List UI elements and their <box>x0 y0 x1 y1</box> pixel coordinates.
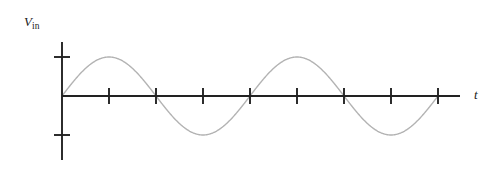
waveform-figure: Vin t <box>0 0 503 174</box>
y-axis-subscript: in <box>32 21 40 31</box>
y-axis-symbol: V <box>24 14 32 29</box>
x-axis-label: t <box>474 88 478 101</box>
y-axis-label: Vin <box>24 15 40 29</box>
waveform-plot <box>0 0 503 174</box>
